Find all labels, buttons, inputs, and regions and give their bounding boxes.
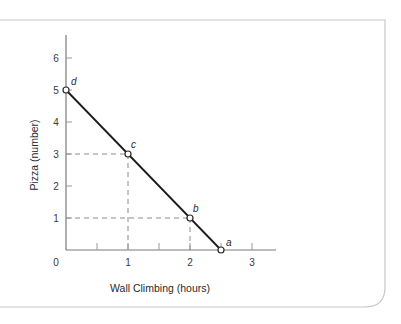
- ppf-line: [66, 90, 221, 250]
- x-tick-label: 2: [187, 257, 193, 268]
- chart: 6 5 4 3 2 1 0 1 2 3 Wall Climbing (hours…: [0, 0, 401, 324]
- point-b: [187, 215, 193, 221]
- y-tick-labels: 6 5 4 3 2 1: [53, 53, 59, 224]
- reference-lines: [66, 154, 190, 250]
- y-axis-title: Pizza (number): [28, 119, 40, 190]
- point-d: [63, 87, 69, 93]
- point-c: [125, 151, 131, 157]
- point-a: [218, 247, 224, 253]
- y-tick-label: 1: [53, 213, 59, 224]
- x-tick-label: 1: [125, 257, 131, 268]
- y-tick-label: 4: [53, 117, 59, 128]
- y-tick-label: 2: [53, 181, 59, 192]
- y-tick-label: 6: [53, 53, 59, 64]
- point-label-d: d: [71, 76, 77, 87]
- x-tick-label-origin: 0: [53, 257, 59, 268]
- point-label-a: a: [226, 237, 232, 248]
- x-axis-title: Wall Climbing (hours): [110, 282, 210, 294]
- y-tick-label: 3: [53, 149, 59, 160]
- point-label-b: b: [193, 203, 199, 214]
- x-tick-label: 3: [249, 257, 255, 268]
- y-tick-label: 5: [53, 85, 59, 96]
- x-tick-labels: 0 1 2 3: [53, 257, 255, 268]
- point-label-c: c: [131, 139, 136, 150]
